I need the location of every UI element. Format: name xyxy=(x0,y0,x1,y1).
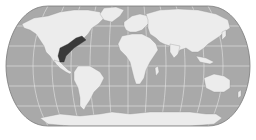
world-map-svg xyxy=(0,0,256,140)
world-map xyxy=(0,0,256,140)
